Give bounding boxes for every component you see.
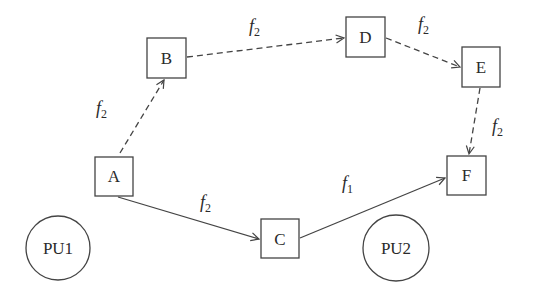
- pu1-label: PU1: [43, 239, 73, 258]
- node-d-label: D: [359, 28, 371, 47]
- edge-label-c-f: f1: [342, 173, 353, 196]
- primary-user-pu2: PU2: [363, 215, 429, 281]
- edge-label-e-f: f2: [492, 116, 503, 139]
- node-b-label: B: [161, 49, 172, 68]
- edge-label-d-e: f2: [418, 14, 429, 37]
- node-c-label: C: [274, 230, 285, 249]
- edge-b-d: [187, 38, 344, 57]
- edge-e-f: [469, 88, 480, 154]
- edge-d-e: [386, 38, 460, 67]
- edge-label-a-b: f2: [96, 98, 107, 121]
- node-f-label: F: [462, 166, 471, 185]
- edge-label-a-c: f2: [200, 192, 211, 215]
- node-a-label: A: [108, 167, 121, 186]
- node-f: F: [447, 156, 486, 195]
- primary-user-pu1: PU1: [26, 216, 90, 280]
- node-e: E: [462, 47, 500, 87]
- node-d: D: [346, 17, 385, 57]
- edge-label-b-d: f2: [249, 16, 260, 39]
- pu2-label: PU2: [381, 239, 411, 258]
- node-c: C: [261, 219, 299, 258]
- primary-users: PU1 PU2: [26, 215, 429, 281]
- nodes: A B C D E F: [95, 17, 500, 258]
- network-diagram: f2 f2 f2 f2 f2 f1 A B C D E F: [0, 0, 536, 303]
- node-e-label: E: [476, 58, 486, 77]
- node-a: A: [95, 157, 133, 196]
- edge-a-c: [118, 197, 259, 239]
- edge-a-b: [120, 80, 164, 153]
- node-b: B: [147, 38, 186, 78]
